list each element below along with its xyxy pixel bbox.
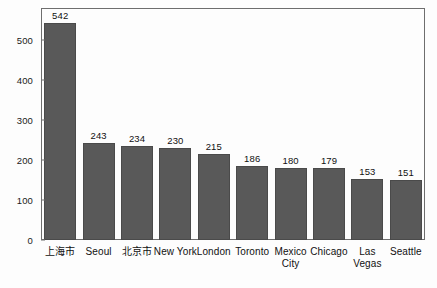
bar-value-label: 243	[91, 130, 107, 141]
bar-value-label: 186	[244, 153, 260, 164]
y-tick-mark	[41, 200, 45, 201]
bar-value-label: 151	[398, 167, 414, 178]
bar-value-label: 215	[206, 141, 222, 152]
bar-value-label: 542	[52, 10, 68, 21]
bar	[313, 168, 345, 240]
y-tick-mark	[41, 160, 45, 161]
bar-chart: 0100200300400500 54224323423021518618017…	[0, 0, 437, 288]
y-tick-mark	[41, 40, 45, 41]
y-tick-mark	[41, 120, 45, 121]
bar	[159, 148, 191, 240]
x-category-label: Seattle	[383, 246, 429, 258]
bar-value-label: 234	[129, 133, 145, 144]
bar-value-label: 153	[359, 166, 375, 177]
bar	[351, 179, 383, 240]
y-tick-mark	[41, 80, 45, 81]
y-tick-mark	[41, 240, 45, 241]
bar-value-label: 179	[321, 155, 337, 166]
bar-value-label: 180	[283, 155, 299, 166]
bar	[44, 23, 76, 240]
bars-layer: 542243234230215186180179153151	[0, 0, 437, 288]
bar	[390, 180, 422, 240]
bar	[198, 154, 230, 240]
bar	[275, 168, 307, 240]
bar	[83, 143, 115, 240]
bar	[236, 166, 268, 240]
bar	[121, 146, 153, 240]
bar-value-label: 230	[167, 135, 183, 146]
